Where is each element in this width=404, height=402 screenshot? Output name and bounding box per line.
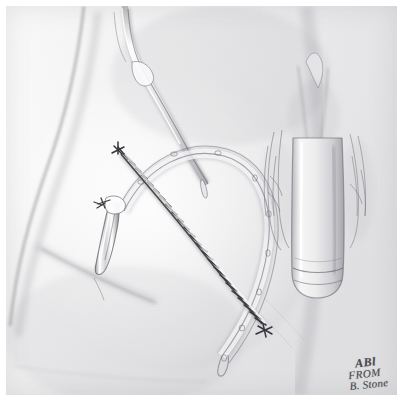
pencil-drawing	[6, 6, 397, 395]
drawing-plate: ABl FROM B. Stone	[6, 6, 397, 395]
artist-signature: ABl FROM B. Stone	[347, 355, 389, 394]
illustration-root: ABl FROM B. Stone	[0, 0, 404, 402]
